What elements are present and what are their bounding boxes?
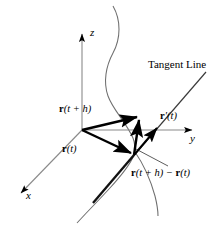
vector-label-r-t: r(t) xyxy=(62,144,77,155)
r-t-plus-h-argument: (t + h) xyxy=(64,103,92,114)
vector-r-t xyxy=(82,130,131,153)
difference-part-2: (t) xyxy=(180,167,190,178)
vector-r-t-plus-h xyxy=(82,117,137,130)
difference-leader-line xyxy=(134,148,168,166)
space-curve-branch xyxy=(135,152,158,216)
vector-derivative-figure: z y x Tangent Line r(t + h) r(t) r′(t) r… xyxy=(0,0,224,230)
vector-label-r-t-plus-h: r(t + h) xyxy=(59,104,91,115)
y-axis-label: y xyxy=(190,133,195,144)
z-axis-label: z xyxy=(90,27,94,38)
x-axis xyxy=(21,130,82,193)
tangent-line-label: Tangent Line xyxy=(148,59,206,70)
tangent-line-lower xyxy=(93,155,134,203)
x-axis-label: x xyxy=(26,190,31,201)
r-t-argument: (t) xyxy=(67,143,77,154)
r-prime-t-argument: ′(t) xyxy=(165,110,177,121)
space-curve xyxy=(106,6,135,155)
difference-part-1: (t + h) − xyxy=(136,167,176,178)
diagram-canvas xyxy=(0,0,224,230)
vector-label-r-prime-t: r′(t) xyxy=(160,111,177,122)
vector-label-difference: r(t + h) − r(t) xyxy=(131,168,190,179)
